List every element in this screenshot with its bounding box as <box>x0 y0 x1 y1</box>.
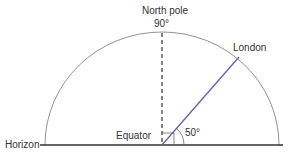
ninety-degree-label: 90° <box>154 19 169 29</box>
equator-label: Equator <box>116 131 151 141</box>
north-pole-label: North pole <box>142 6 188 16</box>
london-line <box>162 57 239 145</box>
london-label: London <box>233 43 266 53</box>
angle-arc <box>176 128 184 145</box>
fifty-degree-label: 50° <box>185 128 200 138</box>
horizon-label: Horizon <box>5 140 39 150</box>
